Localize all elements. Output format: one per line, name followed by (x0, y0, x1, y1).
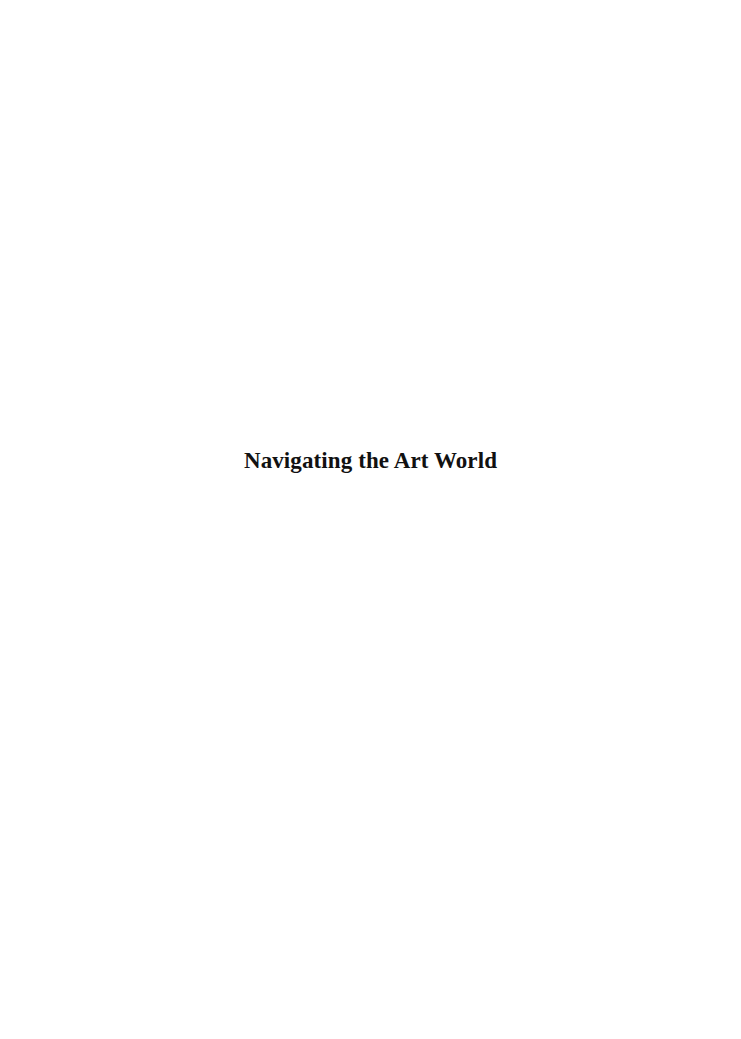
book-title: Navigating the Art World (0, 446, 741, 476)
book-half-title-page: Navigating the Art World (0, 0, 741, 1039)
